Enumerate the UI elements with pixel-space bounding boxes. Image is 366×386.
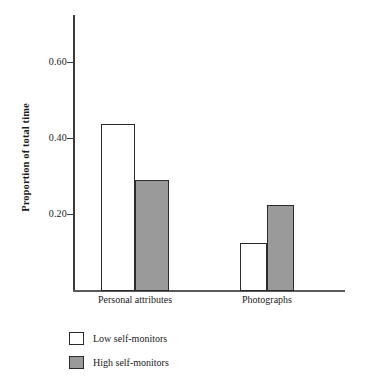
- y-tick-mark-060: [67, 62, 74, 63]
- x-axis-label-photographs: Photographs: [207, 294, 327, 306]
- y-axis-line: [73, 15, 75, 292]
- y-tick-mark-020: [67, 214, 74, 215]
- legend-swatch-white-square: [69, 332, 84, 345]
- plot-area: Proportion of total time 0.60 0.40 0.20 …: [0, 0, 366, 386]
- y-tick-label-060: 0.60: [21, 57, 67, 67]
- x-axis-label-personal-attributes: Personal attributes: [65, 294, 205, 306]
- y-tick-label-040: 0.40: [21, 133, 67, 143]
- legend-swatch-gray-square: [69, 356, 84, 369]
- legend-label-low-self-monitors: Low self-monitors: [93, 333, 167, 344]
- bar-personal-attributes-low: [101, 124, 135, 291]
- y-tick-label-060-wrap: 0.60: [12, 57, 67, 67]
- y-tick-label-020: 0.20: [21, 209, 67, 219]
- bar-personal-attributes-high: [135, 180, 169, 291]
- y-tick-mark-040: [67, 138, 74, 139]
- legend-item-high-self-monitors: High self-monitors: [69, 350, 169, 374]
- chart-legend: Low self-monitors High self-monitors: [69, 326, 169, 374]
- bar-photographs-low: [240, 243, 267, 291]
- legend-label-high-self-monitors: High self-monitors: [93, 357, 169, 368]
- y-tick-label-040-wrap: 0.40: [12, 133, 67, 143]
- legend-item-low-self-monitors: Low self-monitors: [69, 326, 169, 350]
- bar-photographs-high: [267, 205, 294, 291]
- y-tick-label-020-wrap: 0.20: [12, 209, 67, 219]
- chart-figure: Proportion of total time 0.60 0.40 0.20 …: [0, 0, 366, 386]
